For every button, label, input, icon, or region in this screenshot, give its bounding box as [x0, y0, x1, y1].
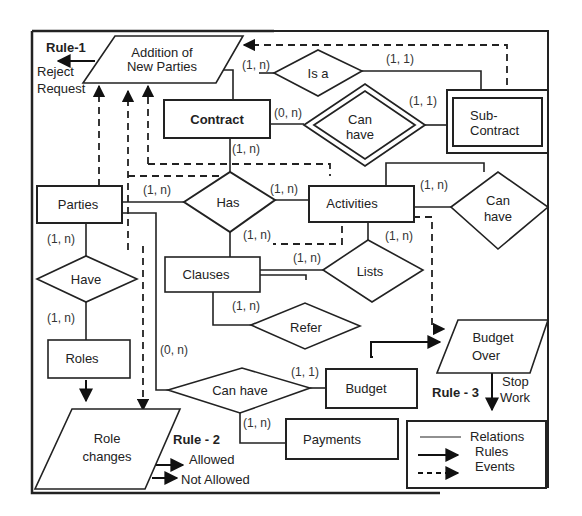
relationship-have[interactable]: Have: [37, 256, 137, 302]
svg-text:Addition of: Addition of: [131, 45, 193, 60]
entity-payments[interactable]: Payments: [286, 419, 398, 459]
svg-text:(1, n): (1, n): [420, 178, 448, 192]
svg-text:(0, n): (0, n): [274, 106, 302, 120]
entity-roles[interactable]: Roles: [48, 340, 130, 378]
relationship-can-have-activities[interactable]: Can have: [451, 172, 548, 249]
svg-text:Role: Role: [94, 431, 121, 446]
svg-text:(1, 1): (1, 1): [291, 365, 319, 379]
relationship-can-have-subcontract[interactable]: Can have: [304, 84, 425, 166]
entity-activities[interactable]: Activities: [309, 186, 414, 222]
rule-3-label: Rule - 3: [432, 385, 479, 400]
svg-text:have: have: [484, 209, 512, 224]
svg-text:Over: Over: [472, 348, 501, 363]
svg-text:(1, n): (1, n): [243, 416, 271, 430]
relationship-has[interactable]: Has: [184, 172, 275, 232]
legend: Relations Rules Events: [407, 421, 546, 488]
svg-text:(1, 1): (1, 1): [409, 94, 437, 108]
svg-text:Have: Have: [71, 272, 101, 287]
svg-text:Parties: Parties: [58, 197, 99, 212]
svg-text:Budget: Budget: [345, 381, 387, 396]
legend-relations: Relations: [470, 429, 525, 444]
relationship-can-have-budget[interactable]: Can have: [168, 368, 310, 413]
svg-text:Roles: Roles: [65, 351, 99, 366]
svg-text:Clauses: Clauses: [183, 267, 230, 282]
svg-text:Contract: Contract: [190, 112, 244, 127]
rule-1-outcome: Reject: [37, 64, 74, 79]
entity-sub-contract[interactable]: Sub- Contract: [447, 90, 548, 153]
rule-1-label: Rule-1: [46, 40, 86, 55]
rule-2-allowed: Allowed: [189, 452, 235, 467]
relationship-is-a[interactable]: Is a: [274, 50, 362, 96]
svg-text:(1, n): (1, n): [47, 311, 75, 325]
rule-2-label: Rule - 2: [173, 432, 220, 447]
svg-text:Activities: Activities: [326, 196, 378, 211]
svg-text:(1, n): (1, n): [243, 228, 271, 242]
svg-text:Budget: Budget: [472, 330, 514, 345]
legend-rules: Rules: [475, 444, 509, 459]
svg-text:(1, n): (1, n): [385, 229, 413, 243]
relationship-lists[interactable]: Lists: [323, 240, 423, 302]
svg-text:changes: changes: [82, 449, 132, 464]
svg-text:(1, n): (1, n): [270, 182, 298, 196]
svg-text:Refer: Refer: [290, 320, 322, 335]
entity-clauses[interactable]: Clauses: [165, 257, 260, 292]
svg-text:(1, 1): (1, 1): [386, 52, 414, 66]
svg-text:Lists: Lists: [357, 264, 384, 279]
svg-text:(1, n): (1, n): [232, 299, 260, 313]
rule-1-outcome-2: Request: [37, 81, 86, 96]
svg-text:Can: Can: [348, 112, 372, 127]
svg-text:Can: Can: [486, 193, 510, 208]
rule-3-outcome-2: Work: [500, 390, 531, 405]
svg-text:Contract: Contract: [470, 123, 520, 138]
event-addition-of-new-parties[interactable]: Addition of New Parties: [83, 36, 243, 83]
legend-events: Events: [475, 459, 515, 474]
entity-parties[interactable]: Parties: [37, 186, 122, 223]
er-diagram: Contract Sub- Contract Parties Activitie…: [0, 0, 582, 516]
svg-text:(1, n): (1, n): [242, 58, 270, 72]
svg-text:New Parties: New Parties: [127, 59, 198, 74]
svg-text:Is a: Is a: [308, 66, 330, 81]
entity-contract[interactable]: Contract: [164, 100, 270, 138]
svg-text:(1, n): (1, n): [47, 232, 75, 246]
svg-text:(1, n): (1, n): [293, 251, 321, 265]
relationship-refer[interactable]: Refer: [251, 303, 360, 349]
rule-3-outcome: Stop: [502, 374, 529, 389]
svg-text:have: have: [346, 127, 374, 142]
rule-2-not-allowed: Not Allowed: [181, 472, 250, 487]
svg-text:(1, n): (1, n): [232, 142, 260, 156]
svg-text:(1, n): (1, n): [143, 183, 171, 197]
entity-budget[interactable]: Budget: [326, 369, 417, 408]
event-budget-over[interactable]: Budget Over: [437, 320, 548, 373]
svg-text:Can have: Can have: [212, 383, 268, 398]
svg-text:Has: Has: [216, 195, 240, 210]
svg-text:Sub-: Sub-: [470, 108, 497, 123]
svg-text:Payments: Payments: [303, 432, 361, 447]
svg-text:(0, n): (0, n): [160, 343, 188, 357]
